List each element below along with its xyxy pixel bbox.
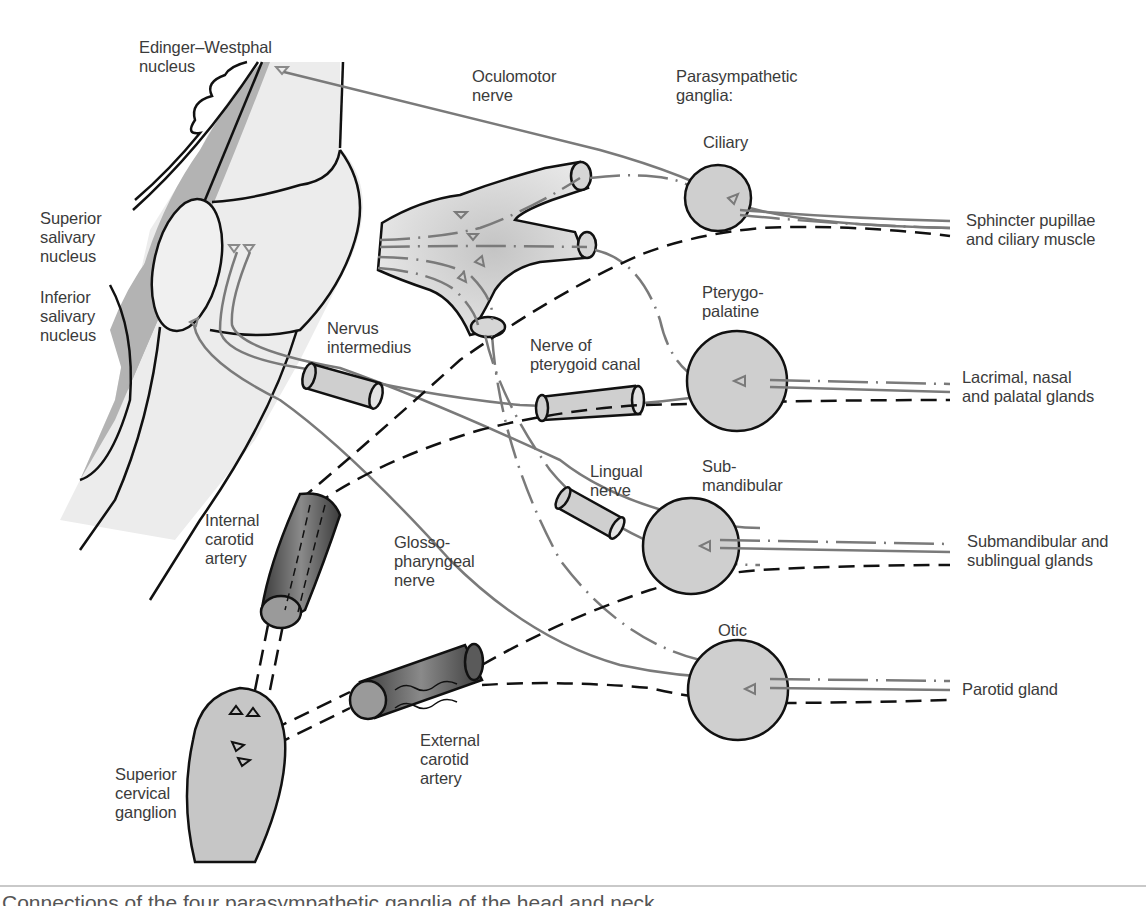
label-lingual-nerve: Lingual nerve (590, 462, 643, 500)
label-superior-cervical-ganglion: Superior cervical ganglion (115, 765, 177, 822)
label-nerve-of-pterygoid-canal: Nerve of pterygoid canal (530, 336, 640, 374)
internal-carotid-artery (261, 493, 340, 628)
superior-cervical-ganglion (187, 688, 285, 862)
label-external-carotid-artery: External carotid artery (420, 731, 480, 788)
label-ganglion-submandibular: Sub- mandibular (702, 457, 783, 495)
figure-caption: Connections of the four parasympathetic … (2, 891, 655, 906)
external-carotid-artery (350, 644, 483, 719)
label-nervus-intermedius: Nervus intermedius (327, 319, 411, 357)
label-glossopharyngeal-nerve: Glosso- pharyngeal nerve (394, 533, 475, 590)
label-target-ciliary: Sphincter pupillae and ciliary muscle (966, 211, 1095, 249)
label-ganglion-pterygopalatine: Pterygo- palatine (702, 283, 764, 321)
trigeminal-trunk (378, 162, 596, 337)
label-target-submandibular: Submandibular and sublingual glands (967, 532, 1108, 570)
label-oculomotor-nerve: Oculomotor nerve (472, 67, 556, 105)
oculomotor-nerve-fiber (284, 72, 950, 228)
ganglion-otic (688, 640, 788, 740)
caption-divider (0, 885, 1146, 887)
label-target-otic: Parotid gland (962, 680, 1058, 699)
label-inferior-salivary-nucleus: Inferior salivary nucleus (40, 288, 96, 345)
ganglion-ciliary (685, 165, 751, 231)
postganglionic-fibers (720, 210, 950, 690)
label-parasympathetic-ganglia: Parasympathetic ganglia: (676, 67, 797, 105)
label-internal-carotid-artery: Internal carotid artery (205, 511, 259, 568)
label-edinger-westphal-nucleus: Edinger–Westphal nucleus (139, 38, 272, 76)
label-ganglion-ciliary: Ciliary (703, 133, 748, 152)
label-ganglion-otic: Otic (718, 621, 747, 640)
label-target-pterygopalatine: Lacrimal, nasal and palatal glands (962, 368, 1094, 406)
ganglion-submandibular (643, 498, 739, 594)
label-superior-salivary-nucleus: Superior salivary nucleus (40, 209, 102, 266)
